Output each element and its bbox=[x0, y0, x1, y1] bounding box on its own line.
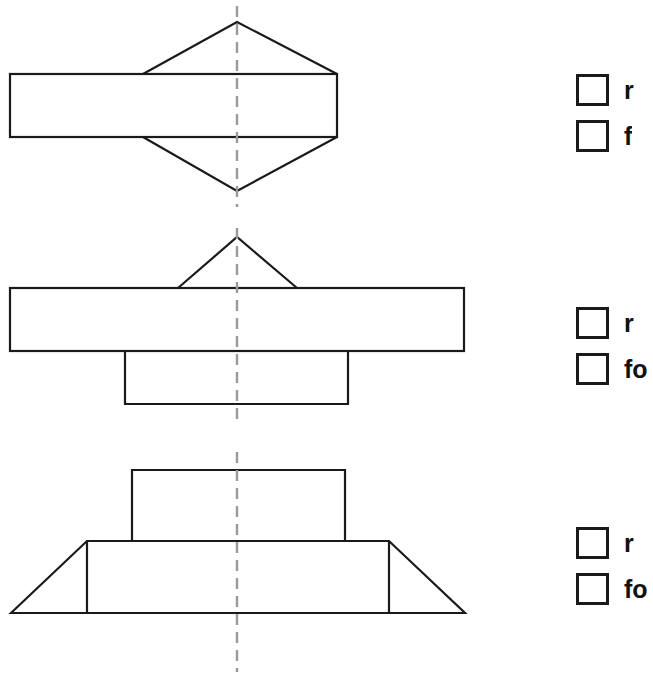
figure-2-stepped-block-with-roof-view bbox=[10, 237, 464, 404]
answer-row-f[interactable]: f bbox=[576, 113, 634, 159]
answer-group-2: r fo bbox=[576, 300, 648, 392]
checkbox-r-icon[interactable] bbox=[576, 527, 609, 559]
answer-label-r: r bbox=[624, 78, 634, 103]
answer-row-r[interactable]: r bbox=[576, 300, 648, 346]
figure-2-roof-triangle bbox=[178, 237, 297, 288]
answer-group-1: r f bbox=[576, 67, 634, 159]
answer-row-f[interactable]: fo bbox=[576, 566, 648, 612]
answer-row-f[interactable]: fo bbox=[576, 346, 648, 392]
figure-2-lower-rectangle bbox=[125, 351, 348, 404]
figure-1-main-rectangle bbox=[10, 74, 337, 137]
answer-label-f: fo bbox=[624, 357, 648, 382]
technical-drawing-canvas bbox=[0, 0, 653, 680]
figure-1-hexagonal-prism-front-view bbox=[10, 22, 337, 191]
checkbox-f-icon[interactable] bbox=[576, 120, 609, 152]
answer-row-r[interactable]: r bbox=[576, 520, 648, 566]
figure-1-lower-triangle bbox=[143, 137, 337, 191]
answer-label-r: r bbox=[624, 311, 634, 336]
answer-row-r[interactable]: r bbox=[576, 67, 634, 113]
checkbox-r-icon[interactable] bbox=[576, 307, 609, 339]
figure-3-upper-rectangle bbox=[132, 470, 345, 541]
figure-3-trapezoid-base bbox=[11, 541, 465, 613]
figure-3-trapezoid-base-with-upper-block-view bbox=[11, 470, 465, 613]
checkbox-f-icon[interactable] bbox=[576, 353, 609, 385]
answer-label-f: fo bbox=[624, 577, 648, 602]
figure-2-main-rectangle bbox=[10, 288, 464, 351]
checkbox-f-icon[interactable] bbox=[576, 573, 609, 605]
answer-group-3: r fo bbox=[576, 520, 648, 612]
answer-label-f: f bbox=[624, 124, 632, 149]
checkbox-r-icon[interactable] bbox=[576, 74, 609, 106]
figure-1-upper-triangle bbox=[143, 22, 337, 74]
answer-label-r: r bbox=[624, 531, 634, 556]
worksheet-page: r f r fo r fo bbox=[0, 0, 653, 680]
